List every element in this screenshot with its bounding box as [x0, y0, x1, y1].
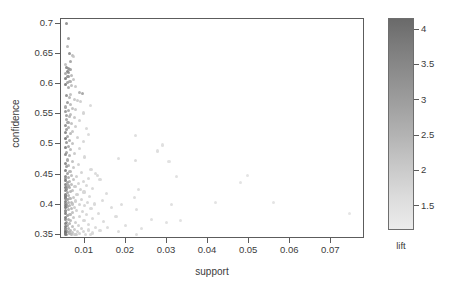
data-point [78, 91, 81, 94]
y-tick-mark [55, 204, 60, 205]
data-point [78, 147, 81, 150]
data-point [117, 157, 120, 160]
data-point [117, 230, 120, 233]
colorbar-tick-label: 1.5 [421, 200, 451, 211]
data-points-layer [61, 19, 363, 237]
data-point [165, 221, 168, 224]
colorbar-title: lift [386, 240, 416, 251]
data-point [74, 199, 77, 202]
x-axis-title: support [60, 266, 364, 277]
data-point [72, 78, 75, 81]
data-point [72, 216, 75, 219]
data-point [87, 228, 90, 231]
x-tick-mark [289, 238, 290, 243]
x-tick-mark [207, 238, 208, 243]
data-point [89, 168, 92, 171]
data-point [66, 45, 69, 48]
data-point [134, 134, 137, 137]
data-point [84, 233, 87, 236]
data-point [97, 212, 100, 215]
data-point [70, 233, 73, 236]
data-point [68, 213, 71, 216]
data-point [272, 201, 275, 204]
data-point [348, 212, 351, 215]
data-point [120, 203, 123, 206]
data-point [133, 196, 136, 199]
data-point [66, 121, 69, 124]
data-point [65, 22, 68, 25]
colorbar-tick-label: 2 [421, 164, 451, 175]
data-point [75, 209, 78, 212]
data-point [71, 142, 74, 145]
y-tick-mark [55, 113, 60, 114]
colorbar-tick-mark [414, 205, 419, 206]
data-point [83, 155, 86, 158]
data-point [87, 133, 90, 136]
data-point [64, 233, 67, 236]
data-point [161, 143, 164, 146]
data-point [65, 165, 68, 168]
data-point [135, 208, 138, 211]
data-point [73, 116, 76, 119]
data-point [170, 203, 173, 206]
data-point [74, 108, 77, 111]
data-point [73, 152, 76, 155]
data-point [124, 224, 127, 227]
data-point [81, 210, 84, 213]
y-tick-mark [55, 174, 60, 175]
data-point [77, 163, 80, 166]
data-point [72, 166, 75, 169]
data-point [93, 202, 96, 205]
data-point [64, 153, 67, 156]
colorbar-tick-mark [414, 29, 419, 30]
data-point [87, 177, 90, 180]
colorbar-tick-mark [414, 64, 419, 65]
colorbar-gradient [388, 18, 414, 230]
x-tick-label: 0.07 [308, 244, 352, 256]
data-point [69, 190, 72, 193]
data-point [73, 185, 76, 188]
data-point [167, 160, 170, 163]
data-point [67, 37, 70, 40]
data-point [156, 149, 159, 152]
y-tick-label: 0.65 [8, 48, 53, 58]
x-tick-mark [84, 238, 85, 243]
x-tick-mark [166, 238, 167, 243]
plot-panel [60, 18, 364, 238]
data-point [64, 124, 67, 127]
data-point [74, 85, 77, 88]
data-point [105, 192, 108, 195]
colorbar-tick-label: 2.5 [421, 129, 451, 140]
data-point [69, 103, 72, 106]
data-point [86, 201, 89, 204]
y-tick-mark [55, 143, 60, 144]
data-point [65, 141, 68, 144]
x-tick-label: 0.03 [144, 244, 188, 256]
x-tick-label: 0.05 [226, 244, 270, 256]
data-point [72, 178, 75, 181]
data-point [81, 92, 84, 95]
data-point [68, 170, 71, 173]
data-point [67, 176, 70, 179]
data-point [246, 174, 249, 177]
data-point [74, 125, 77, 128]
data-point [98, 178, 101, 181]
data-point [66, 75, 69, 78]
data-point [68, 139, 71, 142]
data-point [80, 171, 83, 174]
data-point [78, 215, 81, 218]
data-point [98, 229, 101, 232]
colorbar-tick-label: 4 [421, 23, 451, 34]
data-point [94, 226, 97, 229]
scatter-plot-figure: 0.350.40.450.50.550.60.650.7 confidence … [0, 0, 456, 296]
data-point [64, 110, 67, 113]
colorbar-tick-label: 3.5 [421, 58, 451, 69]
colorbar-tick-label: 3 [421, 94, 451, 105]
y-tick-mark [55, 23, 60, 24]
data-point [76, 136, 79, 139]
data-point [106, 226, 109, 229]
data-point [70, 207, 73, 210]
data-point [68, 197, 71, 200]
data-point [175, 175, 178, 178]
data-point [88, 195, 91, 198]
